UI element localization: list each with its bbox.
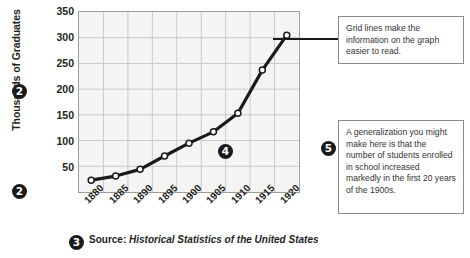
- horizontal-grid-lines: [79, 38, 299, 167]
- data-point-marker: [259, 67, 265, 73]
- callout-number-4-data-line: 4: [218, 144, 233, 159]
- source-label: Source:: [89, 234, 126, 245]
- y-axis-tick-label: 350: [46, 6, 74, 16]
- callout-number-5-generalization: 5: [321, 141, 336, 156]
- callout-number-3-source: 3: [69, 235, 84, 250]
- y-axis-tick-label: 300: [46, 32, 74, 42]
- data-point-marker: [235, 110, 241, 116]
- source-text: Historical Statistics of the United Stat…: [129, 234, 319, 245]
- data-point-marker: [186, 140, 192, 146]
- annotation-box-gridlines: Grid lines make the information on the g…: [338, 16, 464, 64]
- y-axis-tick-label: 150: [46, 110, 74, 120]
- chart-svg: [79, 12, 299, 192]
- data-line: [91, 35, 287, 180]
- graph-figure: 2 2 3 4 5 Thousands of Graduates 5010015…: [0, 0, 470, 258]
- y-axis-tick-label: 100: [46, 136, 74, 146]
- source-line: Source: Historical Statistics of the Uni…: [89, 234, 319, 245]
- callout-number-2-x-axis: 2: [12, 184, 27, 199]
- data-point-marker: [210, 129, 216, 135]
- y-axis-tick-labels: 50100150200250300350: [42, 0, 74, 200]
- y-axis-tick-label: 200: [46, 84, 74, 94]
- y-axis-tick-label: 250: [46, 58, 74, 68]
- y-axis-tick-label: 50: [46, 162, 74, 172]
- callout-number-2-y-axis: 2: [12, 84, 27, 99]
- chart-plot-area: [78, 11, 300, 193]
- annotation-leader-line: [273, 38, 339, 40]
- data-point-marker: [162, 153, 168, 159]
- data-point-marker: [113, 173, 119, 179]
- vertical-grid-lines: [103, 12, 274, 192]
- annotation-box-generalization: A generalization you might make here is …: [338, 120, 464, 214]
- data-point-markers: [88, 32, 290, 183]
- y-axis-title: Thousands of Graduates: [10, 0, 22, 150]
- data-point-marker: [137, 166, 143, 172]
- data-point-marker: [88, 177, 94, 183]
